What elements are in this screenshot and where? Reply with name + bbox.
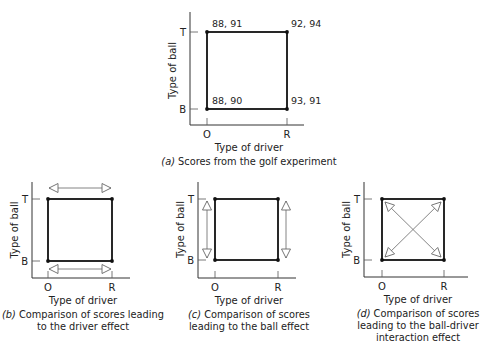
- double-arrow-icon: [282, 201, 291, 258]
- corner-point: [213, 258, 217, 262]
- double-arrow-icon: [203, 201, 212, 258]
- x-tick-label: O: [203, 129, 211, 140]
- double-arrow-icon: [49, 265, 111, 274]
- point-label-o-t: 88, 91: [212, 18, 242, 29]
- axes: [364, 182, 468, 277]
- corner-point: [205, 30, 209, 34]
- arrowhead-icon: [49, 265, 58, 274]
- caption-line: interaction effect: [376, 332, 460, 342]
- caption-line: leading to the ball effect: [189, 321, 309, 332]
- point-label-r-b: 93, 91: [291, 95, 321, 106]
- caption-line: (a) Scores from the golf experiment: [161, 156, 336, 167]
- x-axis-label: Type of driver: [383, 294, 453, 305]
- arrowhead-icon: [203, 249, 212, 258]
- arrowhead-icon: [102, 265, 111, 274]
- caption-line: (b) Comparison of scores leading: [2, 309, 164, 320]
- point-label-r-t: 92, 94: [291, 18, 321, 29]
- corner-point: [110, 197, 114, 201]
- y-axis-label: Type of ball: [9, 202, 20, 260]
- double-arrow-icon: [49, 184, 111, 193]
- x-tick-label: R: [284, 129, 291, 140]
- axes: [32, 182, 130, 278]
- x-axis-label: Type of driver: [48, 295, 118, 306]
- y-tick-label: T: [21, 194, 29, 205]
- corner-point: [380, 258, 384, 262]
- design-square: [215, 199, 278, 260]
- caption-line: to the driver effect: [37, 321, 129, 332]
- arrowhead-icon: [102, 184, 111, 193]
- y-tick-label: B: [353, 255, 360, 266]
- corner-point: [276, 258, 280, 262]
- corner-point: [46, 197, 50, 201]
- corner-point: [110, 259, 114, 263]
- corner-point: [205, 107, 209, 111]
- y-axis-label: Type of ball: [175, 201, 186, 259]
- caption-line: (c) Comparison of scores: [188, 309, 310, 320]
- golf-experiment-diagram: TBORType of driverType of ball88, 9192, …: [0, 0, 482, 342]
- corner-point: [276, 197, 280, 201]
- arrowhead-icon: [49, 184, 58, 193]
- x-tick-label: O: [378, 281, 386, 292]
- x-tick-label: O: [44, 282, 52, 293]
- caption-line: (d) Comparison of scores: [357, 308, 480, 319]
- x-axis-label: Type of driver: [214, 295, 284, 306]
- y-tick-label: B: [187, 255, 194, 266]
- x-axis-label: Type of driver: [214, 142, 284, 153]
- corner-point: [442, 197, 446, 201]
- panel-c: TBORType of driverType of ball(c) Compar…: [175, 182, 310, 332]
- x-tick-label: O: [211, 282, 219, 293]
- y-tick-label: B: [21, 256, 28, 267]
- panel-d: TBORType of driverType of ball(d) Compar…: [341, 182, 480, 342]
- point-label-o-b: 88, 90: [212, 95, 242, 106]
- y-axis-label: Type of ball: [341, 201, 352, 259]
- corner-point: [285, 107, 289, 111]
- design-square: [48, 199, 112, 261]
- y-tick-label: B: [179, 104, 186, 115]
- caption-line: leading to the ball-driver: [357, 320, 479, 331]
- arrowhead-icon: [282, 201, 291, 210]
- x-tick-label: R: [109, 282, 116, 293]
- x-tick-label: R: [441, 281, 448, 292]
- corner-point: [285, 30, 289, 34]
- corner-point: [380, 197, 384, 201]
- corner-point: [442, 258, 446, 262]
- corner-point: [213, 197, 217, 201]
- y-tick-label: T: [187, 194, 195, 205]
- panel-b: TBORType of driverType of ball(b) Compar…: [2, 182, 164, 332]
- arrowhead-icon: [282, 249, 291, 258]
- x-tick-label: R: [275, 282, 282, 293]
- axes: [198, 182, 296, 278]
- corner-point: [46, 259, 50, 263]
- y-tick-label: T: [353, 194, 361, 205]
- arrowhead-icon: [203, 201, 212, 210]
- y-axis-label: Type of ball: [167, 42, 178, 100]
- panel-a: TBORType of driverType of ball88, 9192, …: [161, 12, 336, 167]
- y-tick-label: T: [179, 27, 187, 38]
